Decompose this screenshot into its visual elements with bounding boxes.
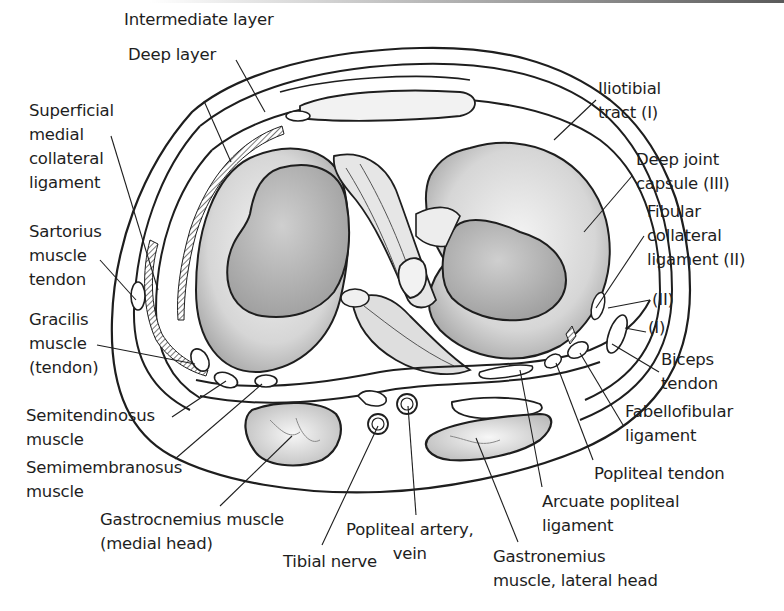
- label-deep-layer: Deep layer: [128, 43, 216, 67]
- label-superficial-mcl: Superficial medial collateral ligament: [29, 99, 114, 195]
- label-fabellofibular: Fabellofibular ligament: [625, 400, 733, 448]
- label-iliotibial-tract: Iliotibial tract (I): [598, 77, 661, 125]
- label-sartorius-tendon: Sartorius muscle tendon: [29, 220, 102, 292]
- label-layer-i-lower: (I): [648, 316, 665, 340]
- label-semitendinosus: Semitendinosus muscle: [26, 404, 155, 452]
- gastrocnemius-medial-shape: [245, 403, 340, 466]
- label-deep-joint-capsule: Deep joint capsule (III): [636, 148, 730, 196]
- label-gastrocnemius-medial: Gastrocnemius muscle (medial head): [100, 508, 284, 556]
- label-layer-ii-lower: (II): [652, 288, 674, 312]
- label-fibular-collateral: Fibular collateral ligament (II): [647, 200, 745, 272]
- label-semimembranosus: Semimembranosus muscle: [26, 456, 182, 504]
- label-popliteal-tendon: Popliteal tendon: [594, 462, 725, 486]
- semimembranosus-shape: [255, 375, 277, 387]
- label-biceps-tendon: Biceps tendon: [661, 348, 718, 396]
- label-arcuate-popliteal: Arcuate popliteal ligament: [542, 490, 679, 538]
- label-intermediate-layer: Intermediate layer: [124, 8, 274, 32]
- label-popliteal-artery-vein: Popliteal artery, vein: [346, 518, 474, 566]
- label-gracilis-tendon: Gracilis muscle (tendon): [29, 308, 98, 380]
- label-gastrocnemius-lateral: Gastronemius muscle, lateral head: [493, 545, 658, 593]
